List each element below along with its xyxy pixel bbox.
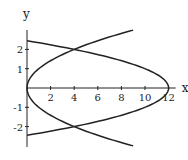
x-tick-label: 10 — [139, 92, 152, 103]
y-tick-label: -2 — [13, 122, 23, 133]
x-tick-label: 8 — [118, 92, 124, 103]
x-tick-label: 12 — [162, 92, 175, 103]
chart: 24681012 21-1-2 x y — [0, 0, 188, 160]
y-tick-label: -1 — [13, 102, 23, 113]
y-tick-label: 1 — [17, 64, 23, 75]
x-axis-label: x — [182, 81, 188, 95]
x-tick-label: 4 — [71, 92, 77, 103]
y-tick-label: 2 — [17, 44, 23, 55]
x-tick-label: 2 — [47, 92, 53, 103]
x-tick-label: 6 — [95, 92, 101, 103]
y-axis-label: y — [22, 7, 30, 21]
x-ticks: 24681012 — [47, 86, 175, 103]
